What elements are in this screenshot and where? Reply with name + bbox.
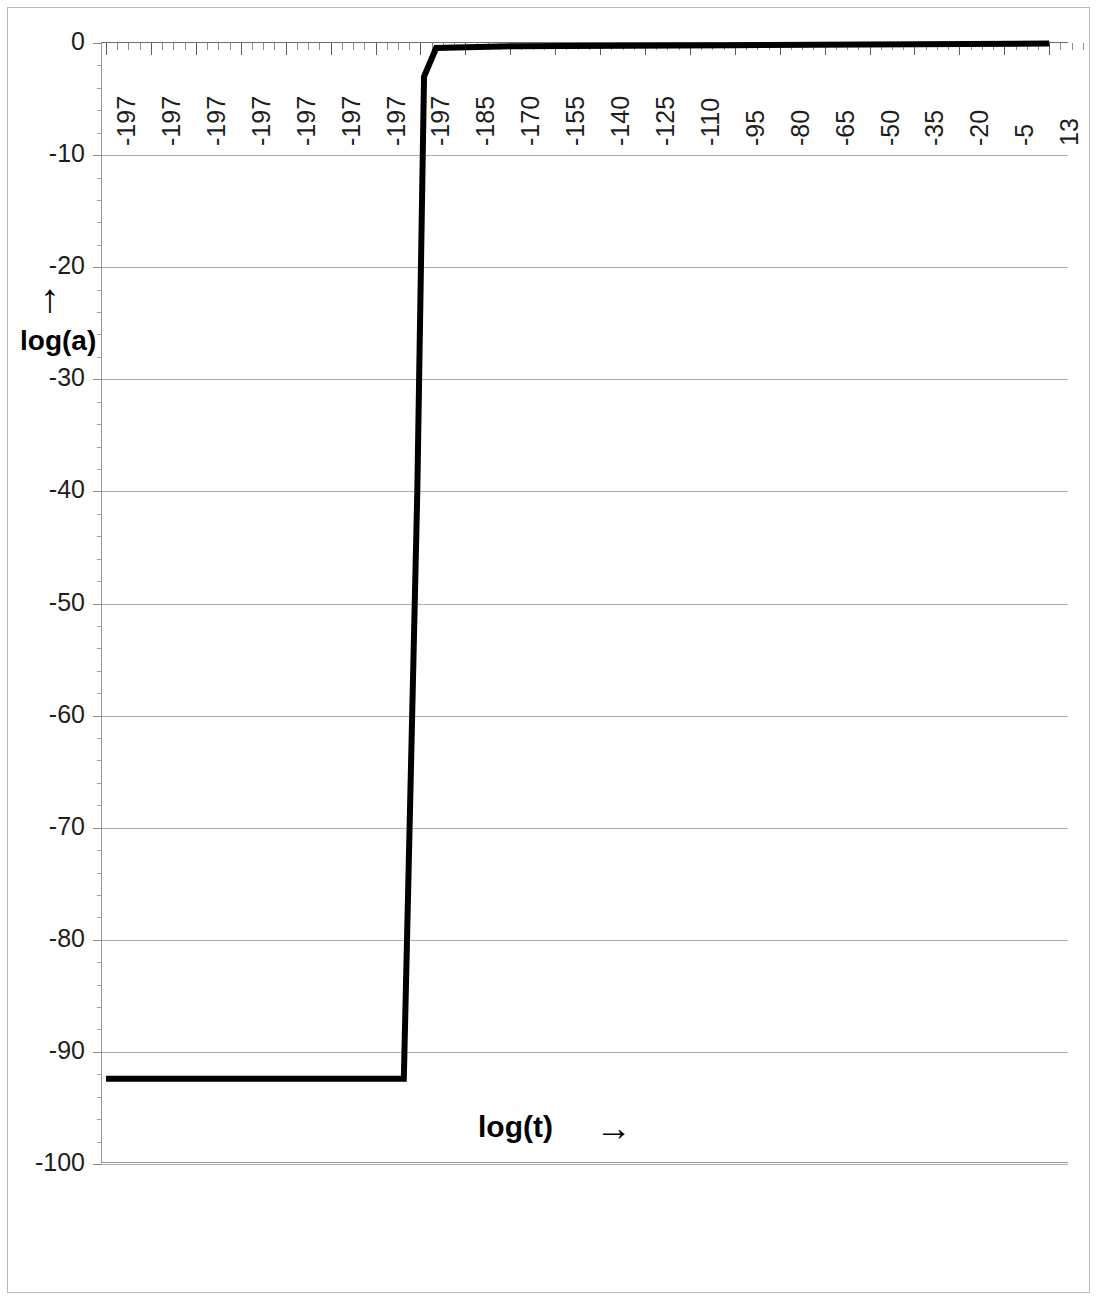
data-series <box>102 43 1069 1164</box>
y-tick-label: -50 <box>49 590 85 615</box>
x-tick-label: -197 <box>249 96 274 146</box>
x-tick-label: -197 <box>159 96 184 146</box>
x-tick-label: -197 <box>114 96 139 146</box>
x-tick-label: -50 <box>878 110 903 146</box>
y-tick-major <box>93 604 102 605</box>
y-tick-major <box>93 491 102 492</box>
y-tick-major <box>93 1164 102 1165</box>
x-tick-label: -197 <box>294 96 319 146</box>
y-tick-label: -60 <box>49 702 85 727</box>
x-tick-label: -20 <box>967 110 992 146</box>
x-tick-label: -65 <box>833 110 858 146</box>
x-tick-label: -170 <box>518 96 543 146</box>
plot-area <box>101 42 1068 1163</box>
x-tick-label: -95 <box>743 110 768 146</box>
x-tick-label: -110 <box>698 98 723 146</box>
y-tick-major <box>93 716 102 717</box>
x-tick-label: -125 <box>653 96 678 146</box>
x-tick-minor <box>1083 43 1084 50</box>
y-tick-label: -10 <box>49 141 85 166</box>
y-tick-label: -70 <box>49 814 85 839</box>
y-tick-label: -30 <box>49 365 85 390</box>
y-tick-label: -90 <box>49 1038 85 1063</box>
x-tick-label: -80 <box>788 110 813 146</box>
y-tick-major <box>93 940 102 941</box>
x-tick-label: -197 <box>428 96 453 146</box>
y-tick-major <box>93 828 102 829</box>
y-tick-label: 0 <box>71 29 85 54</box>
x-tick-label: -155 <box>563 96 588 146</box>
x-tick-label: -5 <box>1012 124 1037 146</box>
x-tick-label: -140 <box>608 96 633 146</box>
y-axis-arrow: ↑ <box>40 278 60 318</box>
y-tick-label: -20 <box>49 253 85 278</box>
y-tick-major <box>93 155 102 156</box>
x-tick-label: 13 <box>1057 118 1082 146</box>
chart-page: ↑ log(a) log(t) → 0-10-20-30-40-50-60-70… <box>0 0 1110 1308</box>
x-tick-label: -185 <box>473 96 498 146</box>
y-tick-major <box>93 267 102 268</box>
y-tick-major <box>93 379 102 380</box>
y-tick-label: -40 <box>49 477 85 502</box>
y-tick-label: -80 <box>49 926 85 951</box>
x-tick-minor <box>1072 43 1073 50</box>
y-tick-major <box>93 1052 102 1053</box>
gridline <box>102 1164 1068 1165</box>
y-axis-title: log(a) <box>20 327 96 355</box>
series-line <box>106 44 1049 1079</box>
x-tick-label: -197 <box>339 96 364 146</box>
x-tick-label: -197 <box>204 96 229 146</box>
y-tick-label: -100 <box>35 1150 85 1175</box>
y-tick-major <box>93 43 102 44</box>
x-tick-label: -35 <box>922 110 947 146</box>
x-tick-label: -197 <box>384 96 409 146</box>
